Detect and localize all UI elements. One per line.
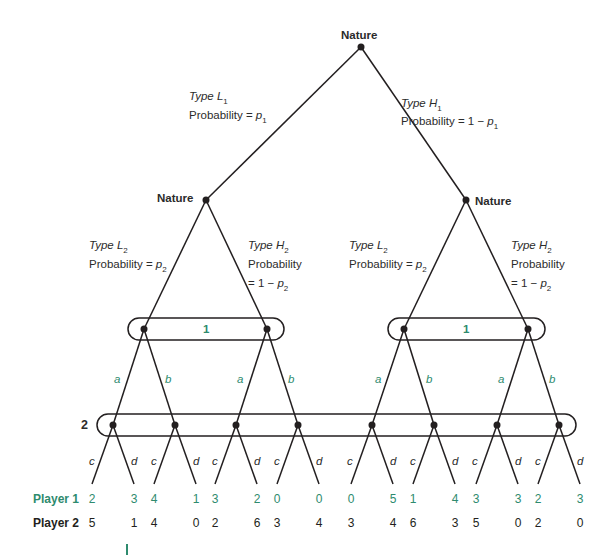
move-a: a <box>237 373 243 385</box>
right-type-h2-probability-line1: Probability <box>511 257 565 271</box>
payoff-p1: 2 <box>249 492 265 506</box>
payoff-p2: 5 <box>468 516 484 530</box>
left-type-l2-label: Type L2 <box>89 238 128 254</box>
payoff-p1: 1 <box>188 492 204 506</box>
payoff-p2: 2 <box>207 516 223 530</box>
payoff-p2: 1 <box>126 516 142 530</box>
move-d: d <box>316 455 322 467</box>
right-type-l2-probability: Probability = p2 <box>349 257 427 273</box>
payoff-p2: 3 <box>343 516 359 530</box>
payoff-p2: 0 <box>188 516 204 530</box>
move-a: a <box>498 373 504 385</box>
move-a: a <box>375 373 381 385</box>
move-b: b <box>549 373 555 385</box>
payoff-p2: 6 <box>405 516 421 530</box>
move-c: c <box>472 455 478 467</box>
payoff-p1: 0 <box>311 492 327 506</box>
payoff-p1: 4 <box>146 492 162 506</box>
nature-left-label: Nature <box>157 191 193 205</box>
payoff-p2: 0 <box>572 516 588 530</box>
payoff-p2: 3 <box>447 516 463 530</box>
payoff-p2: 3 <box>269 516 285 530</box>
move-c: c <box>535 455 541 467</box>
move-d: d <box>254 455 260 467</box>
payoff-p2: 0 <box>510 516 526 530</box>
move-c: c <box>410 455 416 467</box>
info-set-player1-left-label: 1 <box>203 322 209 336</box>
right-type-h2-probability-line2: = 1 − p2 <box>511 276 551 292</box>
payoff-p2: 2 <box>530 516 546 530</box>
right-type-l2-label: Type L2 <box>349 238 388 254</box>
marker <box>126 544 128 555</box>
move-d: d <box>193 455 199 467</box>
move-c: c <box>151 455 157 467</box>
move-b: b <box>165 373 171 385</box>
left-type-l2-probability: Probability = p2 <box>89 257 167 273</box>
payoff-p1: 4 <box>447 492 463 506</box>
move-c: c <box>89 455 95 467</box>
payoff-p2: 4 <box>311 516 327 530</box>
move-d: d <box>131 455 137 467</box>
move-d: d <box>390 455 396 467</box>
payoff-p1: 0 <box>269 492 285 506</box>
nature-right-label: Nature <box>475 194 511 208</box>
payoff-p1: 3 <box>207 492 223 506</box>
move-b: b <box>288 373 294 385</box>
payoff-p1: 3 <box>126 492 142 506</box>
left-type-h2-probability-line2: = 1 − p2 <box>248 276 288 292</box>
payoff-p1: 1 <box>405 492 421 506</box>
player1-payoff-label: Player 1 <box>33 492 79 506</box>
payoff-p2: 4 <box>385 516 401 530</box>
move-c: c <box>212 455 218 467</box>
type-l1-probability: Probability = p1 <box>189 108 267 124</box>
payoff-p1: 3 <box>510 492 526 506</box>
right-type-h2-label: Type H2 <box>511 238 552 254</box>
left-type-h2-probability-line1: Probability <box>248 257 302 271</box>
info-set-player1-right-label: 1 <box>463 322 469 336</box>
payoff-p1: 3 <box>572 492 588 506</box>
move-b: b <box>426 373 432 385</box>
move-a: a <box>114 373 120 385</box>
move-d: d <box>452 455 458 467</box>
type-h1-probability: Probability = 1 − p1 <box>401 114 498 130</box>
type-l1-label: Type L1 <box>189 89 228 105</box>
root-nature-label: Nature <box>341 28 377 42</box>
payoff-p2: 6 <box>249 516 265 530</box>
payoff-p1: 2 <box>84 492 100 506</box>
payoff-p1: 3 <box>468 492 484 506</box>
payoff-p2: 5 <box>84 516 100 530</box>
payoff-p1: 2 <box>530 492 546 506</box>
info-set-player2 <box>97 414 576 436</box>
payoff-p1: 5 <box>385 492 401 506</box>
move-d: d <box>515 455 521 467</box>
type-h1-label: Type H1 <box>401 96 442 112</box>
move-c: c <box>347 455 353 467</box>
payoff-p1: 0 <box>343 492 359 506</box>
move-c: c <box>274 455 280 467</box>
payoff-p2: 4 <box>146 516 162 530</box>
player2-payoff-label: Player 2 <box>33 516 79 530</box>
info-set-player2-label: 2 <box>81 418 88 432</box>
left-type-h2-label: Type H2 <box>248 238 289 254</box>
move-d: d <box>577 455 583 467</box>
